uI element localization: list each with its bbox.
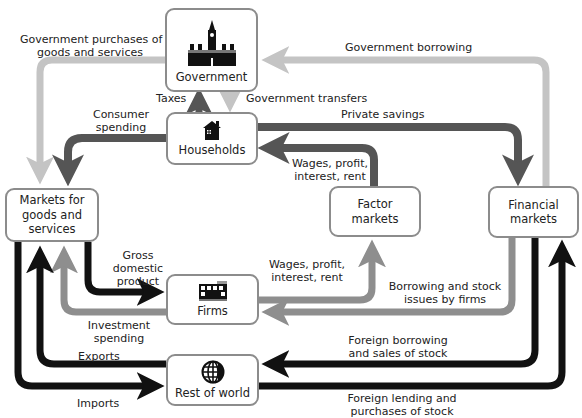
label-exports: Exports: [78, 350, 120, 363]
node-firms: Firms: [166, 274, 259, 325]
label-imports: Imports: [77, 397, 119, 410]
markets-goods-line2: goods and: [22, 208, 82, 222]
label-wages-to-households: Wages, profit, interest, rent: [285, 157, 375, 183]
foreign-borrowing-line2: and sales of stock: [348, 347, 448, 360]
node-households: Households: [166, 112, 258, 165]
foreign-borrowing-line1: Foreign borrowing: [348, 334, 448, 347]
borrowing-firms-line1: Borrowing and stock: [385, 280, 505, 293]
wages-to-households-line1: Wages, profit,: [285, 157, 375, 170]
financial-markets-line1: Financial: [508, 198, 558, 212]
node-rest-of-world: Rest of world: [166, 354, 259, 406]
node-markets-goods-services: Markets for goods and services: [5, 188, 99, 242]
gdp-line2: domestic: [108, 262, 168, 275]
wages-from-firms-line2: interest, rent: [262, 271, 352, 284]
flow-consumer-spending: [68, 138, 166, 172]
gov-purchases-line1: Government purchases of: [20, 33, 160, 46]
consumer-spending-line1: Consumer: [90, 108, 152, 121]
label-foreign-lending: Foreign lending and purchases of stock: [344, 392, 460, 418]
markets-goods-line3: services: [28, 222, 75, 236]
label-investment-spending: Investment spending: [84, 319, 154, 345]
label-gov-transfers: Government transfers: [246, 92, 367, 105]
markets-goods-line1: Markets for: [20, 193, 85, 207]
label-gov-purchases: Government purchases of goods and servic…: [20, 33, 160, 59]
globe-icon: [201, 360, 225, 384]
label-private-savings: Private savings: [341, 108, 425, 121]
foreign-lending-line1: Foreign lending and: [344, 392, 460, 405]
households-label: Households: [179, 143, 246, 157]
label-gdp: Gross domestic product: [108, 249, 168, 289]
borrowing-firms-line2: issues by firms: [385, 293, 505, 306]
gov-purchases-line2: goods and services: [20, 46, 160, 59]
label-gov-borrowing: Government borrowing: [345, 41, 472, 54]
factor-markets-line1: Factor: [357, 197, 392, 211]
investment-spending-line1: Investment: [84, 319, 154, 332]
factory-icon: [197, 281, 229, 301]
label-borrowing-firms: Borrowing and stock issues by firms: [385, 280, 505, 306]
factor-markets-line2: markets: [352, 212, 399, 226]
wages-to-households-line2: interest, rent: [285, 170, 375, 183]
parliament-icon: [186, 20, 238, 68]
label-wages-from-firms: Wages, profit, interest, rent: [262, 258, 352, 284]
gdp-line3: product: [108, 275, 168, 288]
government-label: Government: [176, 70, 248, 84]
rest-of-world-label: Rest of world: [175, 386, 250, 400]
gdp-line1: Gross: [108, 249, 168, 262]
investment-spending-line2: spending: [84, 332, 154, 345]
foreign-lending-line2: purchases of stock: [344, 405, 460, 418]
node-financial-markets: Financial markets: [488, 186, 579, 238]
financial-markets-line2: markets: [510, 212, 557, 226]
label-consumer-spending: Consumer spending: [90, 108, 152, 134]
firms-label: Firms: [197, 304, 228, 318]
wages-from-firms-line1: Wages, profit,: [262, 258, 352, 271]
label-foreign-borrowing: Foreign borrowing and sales of stock: [348, 334, 448, 360]
house-icon: [201, 120, 223, 140]
node-factor-markets: Factor markets: [329, 186, 421, 237]
node-government: Government: [165, 8, 258, 92]
label-taxes: Taxes: [156, 92, 186, 105]
consumer-spending-line2: spending: [90, 121, 152, 134]
